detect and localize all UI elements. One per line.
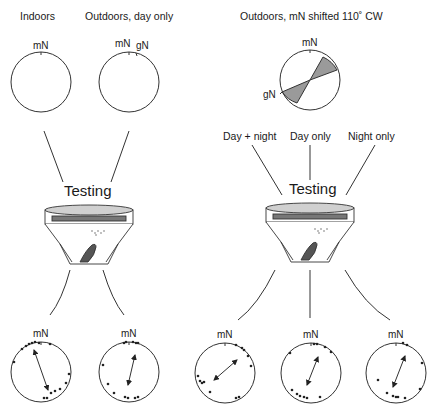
outdoors-day-circle — [99, 52, 159, 112]
subcondition-day-night-label: Day + night — [223, 131, 276, 142]
diagram-canvas — [0, 0, 445, 411]
testing-label-left: Testing — [64, 183, 112, 198]
result-circle-day-night — [195, 343, 255, 403]
condition-indoors-label: Indoors — [20, 11, 55, 22]
subcondition-day-only-label: Day only — [290, 131, 331, 142]
mn-label: mN — [217, 330, 233, 340]
mn-label: mN — [33, 41, 49, 51]
funnel-cage-left — [45, 205, 133, 264]
mn-label: mN — [302, 38, 318, 48]
gn-label: gN — [263, 90, 276, 100]
condition-outdoors-day-label: Outdoors, day only — [85, 11, 173, 22]
subcondition-night-only-label: Night only — [348, 131, 395, 142]
testing-label-right: Testing — [289, 181, 337, 196]
mn-label: mN — [121, 329, 137, 339]
mn-label: mN — [115, 39, 131, 49]
mn-label: mN — [388, 330, 404, 340]
mn-label: mN — [303, 330, 319, 340]
result-circle-indoors — [11, 342, 71, 402]
result-circle-night-only — [366, 343, 426, 403]
result-circle-outdoors-day — [99, 342, 159, 402]
indoors-circle — [11, 52, 71, 112]
gn-label: gN — [136, 41, 149, 51]
funnel-cage-right — [266, 203, 354, 262]
condition-outdoors-shifted-label: Outdoors, mN shifted 110˚ CW — [240, 11, 383, 22]
data-points — [13, 341, 424, 400]
mn-label: mN — [33, 329, 49, 339]
shifted-compass — [280, 50, 340, 110]
